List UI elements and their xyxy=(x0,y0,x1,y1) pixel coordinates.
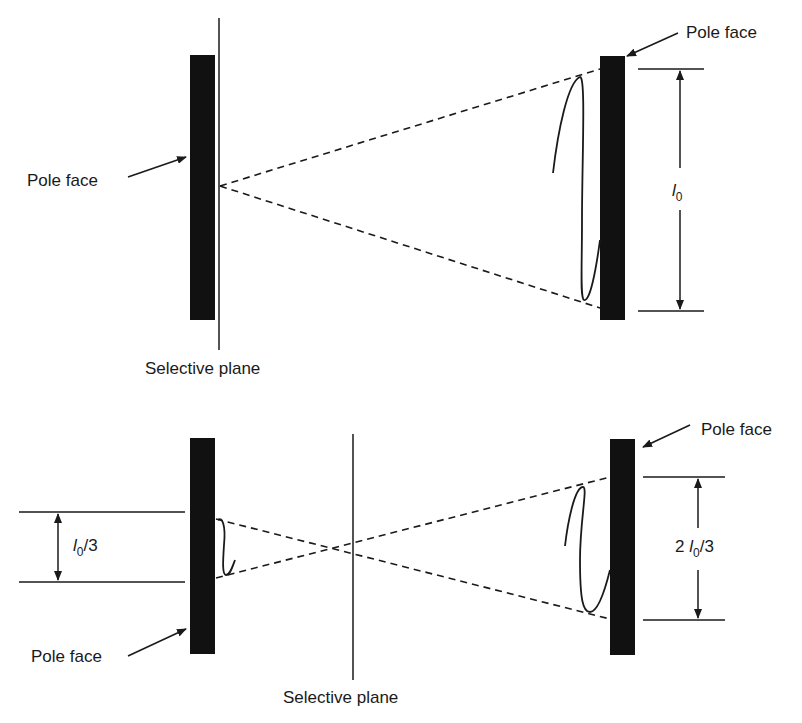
bottom-beam-line-a xyxy=(216,519,610,619)
top-upper-beam-line xyxy=(220,69,600,186)
dim-subscript: 0 xyxy=(693,546,700,560)
dim-prefix: 2 xyxy=(675,537,689,556)
bottom-left-pole-face-label: Pole face xyxy=(31,648,102,665)
bottom-left-pole-arrow xyxy=(128,629,186,656)
bottom-panel xyxy=(19,425,725,680)
bottom-left-pole-face xyxy=(190,438,215,654)
top-dimension-label: l0 xyxy=(672,182,682,199)
bottom-right-dimension-label: 2 l0/3 xyxy=(673,538,716,555)
top-helix-icon xyxy=(553,77,600,300)
dim-suffix: /3 xyxy=(83,536,97,555)
bottom-beam-line-b xyxy=(216,477,610,578)
top-panel xyxy=(128,18,704,350)
bottom-right-pole-arrow xyxy=(643,425,690,447)
bottom-right-pole-face xyxy=(610,439,635,655)
top-left-pole-arrow xyxy=(128,157,186,177)
bottom-left-helix-icon xyxy=(218,519,235,575)
top-left-pole-face-label: Pole face xyxy=(27,172,98,189)
top-right-pole-arrow xyxy=(627,33,678,56)
dim-subscript: 0 xyxy=(77,545,84,559)
bottom-selective-plane-label: Selective plane xyxy=(283,689,398,706)
top-right-pole-face xyxy=(600,56,625,320)
bottom-left-dimension-label: l0/3 xyxy=(73,537,98,554)
top-lower-beam-line xyxy=(220,186,600,308)
dim-subscript: 0 xyxy=(676,190,683,204)
top-right-pole-face-label: Pole face xyxy=(686,24,757,41)
top-left-pole-face xyxy=(190,55,215,320)
bottom-right-helix-icon xyxy=(565,487,610,612)
bottom-right-pole-face-label: Pole face xyxy=(701,421,772,438)
dim-suffix: /3 xyxy=(700,537,714,556)
diagram-canvas xyxy=(0,0,802,723)
top-selective-plane-label: Selective plane xyxy=(145,360,260,377)
